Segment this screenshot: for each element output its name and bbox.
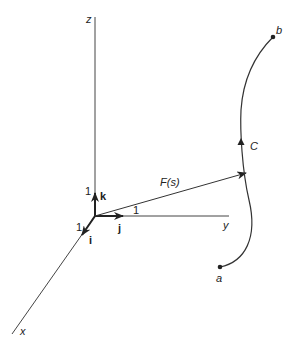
k-unit-label: 1 bbox=[85, 185, 91, 197]
curve-label: C bbox=[250, 140, 258, 152]
i-label: i bbox=[89, 234, 92, 246]
y-axis-label: y bbox=[222, 219, 230, 231]
point-a-label: a bbox=[216, 272, 222, 284]
curve-direction-arrow-icon bbox=[238, 138, 245, 145]
j-label: j bbox=[117, 222, 121, 234]
k-label: k bbox=[100, 190, 107, 202]
z-axis-label: z bbox=[85, 13, 92, 25]
point-b bbox=[271, 35, 276, 40]
point-a bbox=[218, 265, 223, 270]
diagram-canvas: z y x k 1 j 1 i 1 F(s) C a b bbox=[0, 0, 291, 348]
i-unit-label: 1 bbox=[76, 221, 82, 233]
point-b-label: b bbox=[276, 24, 282, 36]
i-vector bbox=[82, 216, 95, 235]
j-unit-label: 1 bbox=[133, 204, 139, 216]
curve-C bbox=[220, 37, 273, 267]
position-vector-label: F(s) bbox=[160, 176, 180, 188]
x-axis-label: x bbox=[19, 325, 26, 337]
